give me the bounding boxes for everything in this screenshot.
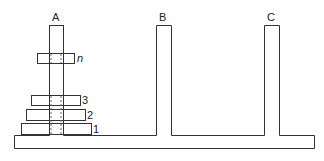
- disk-label-n: n: [77, 52, 83, 64]
- disk-1: [22, 124, 92, 135]
- disk-label-1: 1: [93, 123, 99, 135]
- disk-2: [27, 110, 86, 121]
- peg-label-b: B: [159, 11, 166, 23]
- tower-of-hanoi-diagram: A B C n 3 2 1: [0, 0, 324, 161]
- disk-n: [38, 54, 75, 64]
- peg-label-a: A: [52, 11, 60, 23]
- disk-label-2: 2: [87, 109, 93, 121]
- disk-label-3: 3: [82, 94, 88, 106]
- peg-label-c: C: [267, 11, 275, 23]
- disk-3: [32, 96, 81, 106]
